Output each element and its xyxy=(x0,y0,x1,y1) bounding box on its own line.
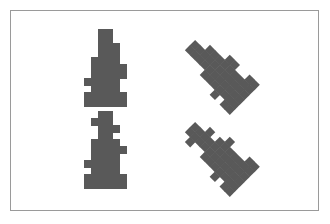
glyph-pixel-grid xyxy=(77,29,147,106)
shape-microscope-glyph-a-upright[interactable] xyxy=(77,29,147,106)
glyph-cells xyxy=(175,112,260,197)
glyph-pixel-grid xyxy=(77,111,147,188)
glyph-pixel-grid xyxy=(170,98,274,202)
shape-microscope-glyph-b-rotated[interactable] xyxy=(170,98,274,202)
glyph-cells xyxy=(84,29,127,107)
shape-stage xyxy=(11,11,318,210)
shape-microscope-glyph-b-upright[interactable] xyxy=(77,111,147,188)
glyph-cells xyxy=(84,111,127,189)
canvas-frame xyxy=(10,10,319,211)
